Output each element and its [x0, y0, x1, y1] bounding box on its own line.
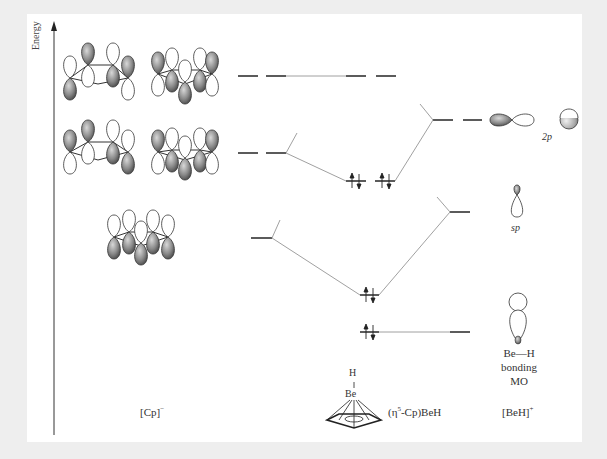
- complex-levels: [346, 76, 396, 332]
- beh-2p-orbital-z: [560, 109, 578, 129]
- beh-label-text: [BeH]: [502, 406, 530, 418]
- atom-be: Be: [345, 388, 356, 399]
- energy-axis-label: Energy: [30, 21, 41, 50]
- cp-orbital-e2a: [64, 43, 135, 100]
- energy-axis: [51, 21, 57, 435]
- complex-column-label: (η5-Cp)BeH: [388, 405, 441, 418]
- beh-column-label: [BeH]+: [502, 405, 533, 418]
- atom-h: H: [349, 367, 356, 378]
- bonding-line-1: Be—H: [497, 346, 541, 360]
- label-sp: sp: [511, 222, 520, 233]
- cp-orbital-e1b: [152, 128, 219, 180]
- cp-orbital-a1: [108, 210, 175, 265]
- cp-charge: −: [160, 405, 164, 413]
- axis-arrow-icon: [51, 21, 57, 31]
- cp-column-label: [Cp]−: [140, 405, 164, 418]
- cp-orbital-e1a: [64, 120, 135, 174]
- electrons: [350, 173, 391, 340]
- beh-2p-orbital-x: [490, 114, 534, 126]
- label-2p: 2p: [542, 131, 552, 142]
- beh-levels: [433, 120, 482, 332]
- correlation-lines: [272, 76, 450, 332]
- complex-label-suffix: -Cp)BeH: [401, 406, 441, 418]
- complex-label-prefix: (η: [388, 406, 397, 418]
- bonding-line-2: bonding: [497, 360, 541, 374]
- bonding-line-3: MO: [497, 374, 541, 388]
- beh-sp-orbital: [511, 185, 522, 217]
- beh-charge: +: [530, 405, 534, 413]
- cp-orbital-e2b: [152, 48, 219, 104]
- cp-levels: [238, 76, 286, 238]
- label-bonding-mo: Be—H bonding MO: [497, 346, 541, 388]
- beh-bonding-orbital: [509, 293, 527, 344]
- cp-label-text: [Cp]: [140, 406, 160, 418]
